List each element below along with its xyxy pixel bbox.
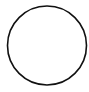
circle-outline bbox=[8, 6, 87, 85]
circle-icon bbox=[0, 0, 89, 92]
canvas bbox=[0, 0, 89, 92]
